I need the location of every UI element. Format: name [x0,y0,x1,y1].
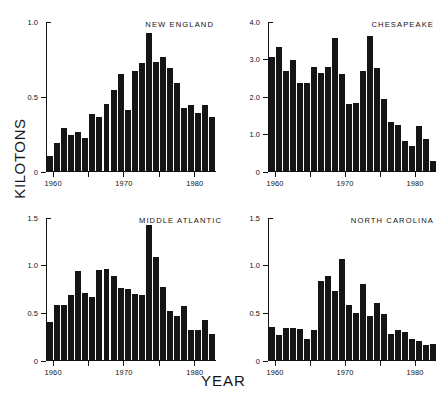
bar [188,105,194,171]
bar [402,332,408,360]
bar [125,289,131,360]
bar [423,139,429,171]
x-axis-line [268,171,436,172]
x-axis-tick-label: 1960 [44,179,61,188]
y-axis-tick-label: 0 [34,168,38,177]
panel-title: CHESAPEAKE [372,20,435,29]
bar [311,330,317,360]
bar [409,339,415,360]
panel-title: NORTH CAROLINA [351,216,434,225]
bar [54,143,60,172]
bar [125,110,131,172]
panel-middle-atlantic: 00.51.01.5196019701980MIDDLE ATLANTIC [46,218,216,361]
bar [61,128,67,172]
bar [47,322,53,360]
bar [68,295,74,360]
bar [332,291,338,360]
bar [195,113,201,172]
bar [346,104,352,172]
bar [430,161,436,171]
y-axis-tick-label: 4.0 [249,18,260,27]
y-axis-tick-label: 1.0 [249,261,260,270]
panel-new-england: 00.51.0196019701980NEW ENGLAND [46,22,216,172]
bar [402,141,408,171]
x-axis-line [46,171,216,172]
y-axis-tick-label: 0.5 [249,309,260,318]
bar [167,311,173,360]
y-axis-title: KILOTONS [11,114,28,204]
bar [339,74,345,172]
bar [325,276,331,360]
bar [167,68,173,172]
y-axis-tick [41,97,46,98]
bar [82,138,88,171]
bar [290,328,296,360]
y-axis-tick-label: 3.0 [249,55,260,64]
bar [318,73,324,171]
bar [153,257,159,360]
bar [104,269,110,360]
bar [269,327,275,360]
bar [68,135,74,171]
bar [153,62,159,172]
x-axis-tick-label: 1980 [186,179,203,188]
bar [111,276,117,360]
x-axis-tick [88,172,89,177]
bar [395,125,401,171]
bar [96,117,102,171]
bar [304,83,310,171]
bar [188,330,194,361]
y-axis-tick-label: 0.5 [27,309,38,318]
x-axis-tick-label: 1970 [336,368,353,377]
x-axis-tick [415,172,416,177]
y-axis-tick-label: 1.5 [27,214,38,223]
bar [202,105,208,171]
bar [160,57,166,171]
panel-title: MIDDLE ATLANTIC [139,216,222,225]
bar [283,328,289,360]
x-axis-tick-label: 1960 [44,368,61,377]
y-axis-tick-label: 1.5 [249,214,260,223]
panel-north-carolina: 00.51.01.5196019701980NORTH CAROLINA [268,218,436,361]
y-axis-tick [263,172,268,173]
bar-series [269,217,437,360]
x-axis-tick-label: 1970 [336,179,353,188]
bar [139,63,145,171]
y-axis-tick [41,172,46,173]
panel-title: NEW ENGLAND [145,20,214,29]
bar [139,295,145,360]
x-axis-tick-label: 1970 [115,179,132,188]
bar-series [47,21,217,171]
bar-series [47,217,217,360]
bar [118,288,124,360]
bar [346,305,352,360]
figure-multi-panel-bar-charts: KILOTONS YEAR 00.51.0196019701980NEW ENG… [0,0,447,410]
bar [374,68,380,171]
x-axis-line [46,360,216,361]
bar [416,126,422,171]
bar [202,320,208,360]
x-axis-tick-label: 1980 [186,368,203,377]
y-axis-tick [41,313,46,314]
bar [75,132,81,171]
y-axis-tick-label: 1.0 [249,130,260,139]
x-axis-tick [345,172,346,177]
bar [276,47,282,171]
x-axis-tick [53,361,54,366]
y-axis-tick-label: 0 [34,357,38,366]
x-axis-tick [310,361,311,366]
bar [269,57,275,171]
x-axis-line [268,360,436,361]
x-axis-tick [310,172,311,177]
bar [395,330,401,361]
bar [374,303,380,360]
bar [104,104,110,172]
bar [332,38,338,171]
bar [96,270,102,360]
x-axis-title: YEAR [0,372,447,389]
x-axis-tick [159,361,160,366]
bar [181,306,187,360]
x-axis-tick [123,361,124,366]
bar [339,259,345,360]
bar [146,33,152,171]
